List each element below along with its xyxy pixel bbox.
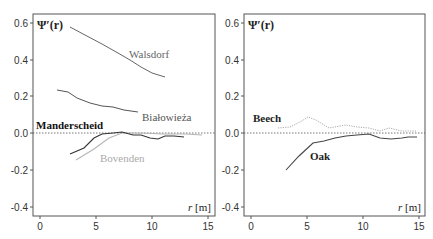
left-ytick-label: 0.2 <box>14 91 28 102</box>
left-ytick-label: 0.6 <box>14 18 28 29</box>
label-bialowieza: Białowieża <box>142 111 192 123</box>
series-bialowieza <box>57 90 138 112</box>
right-ytick-label: 0.0 <box>225 128 239 139</box>
label-manderscheid: Manderscheid <box>36 119 103 131</box>
left-ytick-label: -0.2 <box>11 165 29 176</box>
right-y-axis: 0.6 0.4 0.2 0.0 -0.2 -0.4 <box>222 18 244 213</box>
right-x-axis: 0 5 10 15 <box>248 216 425 232</box>
right-panel: 0.6 0.4 0.2 0.0 -0.2 -0.4 0 5 10 15 Ψ′(r… <box>222 14 425 232</box>
right-xtick-label: 15 <box>413 221 425 232</box>
left-x-axis-label: r [m] <box>188 201 211 213</box>
left-y-axis-label: Ψ′(r) <box>37 18 63 32</box>
label-bovenden: Bovenden <box>100 152 145 164</box>
series-manderscheid <box>70 132 184 154</box>
right-xtick-label: 10 <box>357 221 369 232</box>
label-oak: Oak <box>310 150 331 162</box>
right-ytick-label: 0.6 <box>225 18 239 29</box>
left-panel: 0.6 0.4 0.2 0.0 -0.2 -0.4 0 5 10 15 Ψ′(r… <box>11 14 215 232</box>
right-y-axis-label: Ψ′(r) <box>248 18 274 32</box>
left-x-axis: 0 5 10 15 <box>37 216 214 232</box>
figure: 0.6 0.4 0.2 0.0 -0.2 -0.4 0 5 10 15 Ψ′(r… <box>0 0 433 239</box>
series-oak <box>286 134 417 170</box>
left-ytick-label: 0.0 <box>14 128 28 139</box>
right-ytick-label: 0.4 <box>225 55 239 66</box>
right-ytick-label: 0.2 <box>225 91 239 102</box>
right-x-axis-label: r [m] <box>398 201 421 213</box>
left-xtick-label: 10 <box>146 221 158 232</box>
label-walsdorf: Walsdorf <box>129 48 169 60</box>
left-ytick-label: -0.4 <box>11 202 29 213</box>
x-unit: [m] <box>192 201 211 213</box>
left-ytick-label: 0.4 <box>14 55 28 66</box>
right-ytick-label: -0.2 <box>222 165 240 176</box>
right-ytick-label: -0.4 <box>222 202 240 213</box>
left-xtick-label: 0 <box>37 221 43 232</box>
right-xtick-label: 5 <box>304 221 310 232</box>
series-beech <box>278 117 417 131</box>
right-xtick-label: 0 <box>248 221 254 232</box>
left-y-axis: 0.6 0.4 0.2 0.0 -0.2 -0.4 <box>11 18 33 213</box>
left-xtick-label: 5 <box>93 221 99 232</box>
left-xtick-label: 15 <box>202 221 214 232</box>
label-beech: Beech <box>253 112 281 124</box>
x-unit: [m] <box>402 201 421 213</box>
